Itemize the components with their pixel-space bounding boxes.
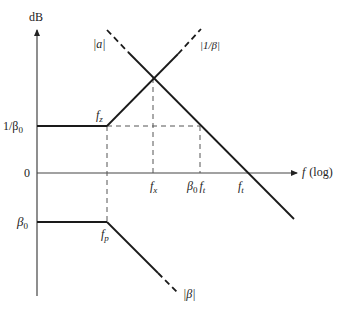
x-tick-fx: fx <box>150 179 157 195</box>
curve-label-inv-beta: |1/β| <box>200 39 220 51</box>
beta-dashed <box>158 273 178 293</box>
a-curve-dashed <box>107 30 128 52</box>
x-axis-label: f(log) <box>302 165 333 179</box>
inv-beta-dashed <box>178 29 201 54</box>
diagram-svg: dB f(log) 1/β0 0 β0 fx β0ft ft fz fp |a| <box>0 0 344 310</box>
x-tick-beta0-ft: β0ft <box>186 179 206 195</box>
y-tick-beta0: β0 <box>16 214 28 231</box>
y-tick-zero: 0 <box>24 166 30 180</box>
x-tick-ft: ft <box>238 179 244 195</box>
curve-label-a: |a| <box>93 37 106 51</box>
inv-beta-rise <box>107 54 178 126</box>
y-tick-inv-beta0: 1/β0 <box>3 119 23 135</box>
bode-diagram: dB f(log) 1/β0 0 β0 fx β0ft ft fz fp |a| <box>0 0 344 310</box>
curve-label-beta: |β| <box>183 287 196 301</box>
corner-label-fz: fz <box>96 108 103 124</box>
corner-label-fp: fp <box>101 227 109 243</box>
y-axis-label: dB <box>29 10 43 24</box>
beta-fall <box>107 222 158 273</box>
guide-lines <box>107 78 200 222</box>
